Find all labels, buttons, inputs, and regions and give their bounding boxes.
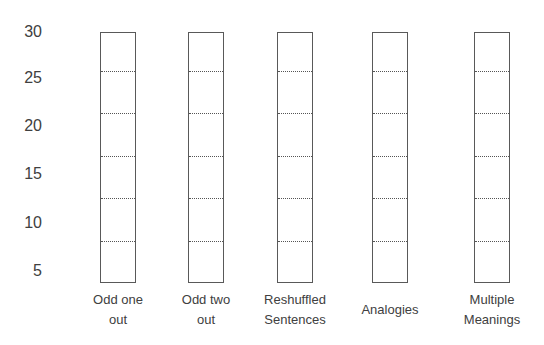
x-label-reshuffled-sentences: Reshuffled Sentences (240, 290, 350, 330)
x-label-multiple-meanings: Multiple Meanings (437, 290, 544, 330)
gridline (101, 113, 135, 114)
gridline (189, 156, 223, 157)
gridline (373, 156, 407, 157)
gridline (278, 198, 312, 199)
x-label-line: Analogies (335, 300, 445, 320)
bar-reshuffled-sentences (277, 32, 313, 283)
y-tick-25: 25 (20, 70, 42, 86)
y-tick-20: 20 (20, 118, 42, 134)
x-label-line: Sentences (240, 310, 350, 330)
gridline (278, 156, 312, 157)
gridline (373, 113, 407, 114)
x-label-analogies: Analogies (335, 300, 445, 320)
gridline (278, 241, 312, 242)
gridline (475, 198, 509, 199)
x-label-line: Multiple (437, 290, 544, 310)
x-label-line: Reshuffled (240, 290, 350, 310)
y-tick-5: 5 (20, 263, 42, 279)
gridline (373, 71, 407, 72)
gridline (278, 113, 312, 114)
gridline (101, 156, 135, 157)
gridline (475, 113, 509, 114)
gridline (373, 198, 407, 199)
gridline (101, 71, 135, 72)
gridline (475, 156, 509, 157)
gridline (101, 241, 135, 242)
y-tick-15: 15 (20, 166, 42, 182)
gridline (373, 241, 407, 242)
y-tick-30: 30 (20, 24, 42, 40)
gridline (475, 71, 509, 72)
gridline (189, 198, 223, 199)
bar-odd-one-out (100, 32, 136, 283)
gridline (101, 198, 135, 199)
gridline (189, 71, 223, 72)
bar-multiple-meanings (474, 32, 510, 283)
gridline (278, 71, 312, 72)
gridline (189, 241, 223, 242)
x-label-line: Meanings (437, 310, 544, 330)
gridline (475, 241, 509, 242)
gridline (189, 113, 223, 114)
y-tick-10: 10 (20, 215, 42, 231)
bar-odd-two-out (188, 32, 224, 283)
bar-analogies (372, 32, 408, 283)
